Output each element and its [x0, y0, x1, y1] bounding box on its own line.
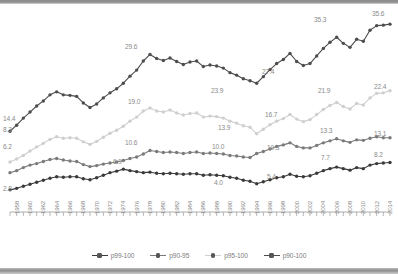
data-label: 6.9: [113, 159, 122, 166]
data-point: [375, 162, 378, 165]
series-line-p90-95: [10, 137, 390, 173]
data-point: [335, 101, 338, 104]
data-point: [328, 139, 331, 142]
data-label: 10.0: [212, 144, 224, 151]
data-point: [155, 109, 158, 112]
data-point: [295, 145, 298, 148]
data-point: [235, 154, 238, 157]
data-point: [315, 144, 318, 147]
data-point: [75, 137, 78, 140]
legend-item-p90-100[interactable]: p90-100: [264, 252, 307, 259]
x-tick-label: 1960: [26, 201, 33, 214]
data-point: [228, 119, 231, 122]
data-point: [42, 179, 45, 182]
data-point: [135, 68, 138, 71]
data-point: [122, 159, 125, 162]
data-point: [62, 137, 65, 140]
data-point: [275, 119, 278, 122]
data-point: [295, 117, 298, 120]
data-point: [368, 137, 371, 140]
data-point: [188, 172, 191, 175]
bottom-divider-bar: [0, 268, 398, 274]
data-point: [142, 109, 145, 112]
legend-item-p90-95[interactable]: p90-95: [150, 252, 189, 259]
x-tick-label: 1996: [266, 201, 273, 214]
data-point: [122, 82, 125, 85]
data-point: [15, 187, 18, 190]
legend-label: p90-100: [283, 252, 307, 259]
data-point: [208, 63, 211, 66]
data-point: [95, 176, 98, 179]
data-label: 13.1: [374, 131, 386, 138]
legend-item-p95-100[interactable]: p95-100: [205, 252, 248, 259]
data-point: [268, 123, 271, 126]
data-point: [62, 158, 65, 161]
data-point: [208, 114, 211, 117]
data-point: [335, 165, 338, 168]
data-point: [275, 62, 278, 65]
data-point: [82, 163, 85, 166]
data-point: [355, 102, 358, 105]
data-point: [368, 163, 371, 166]
data-point: [68, 175, 71, 178]
data-label: 6.2: [3, 144, 12, 151]
data-point: [168, 171, 171, 174]
data-point: [95, 102, 98, 105]
legend-swatch-icon: [150, 255, 166, 256]
data-point: [62, 176, 65, 179]
series-line-p95-100: [10, 91, 390, 162]
data-point: [242, 155, 245, 158]
legend-item-p99-100[interactable]: p99-100: [92, 252, 135, 259]
series-p90-100: [8, 22, 391, 133]
data-point: [308, 62, 311, 65]
data-point: [68, 94, 71, 97]
data-point: [182, 113, 185, 116]
data-point: [228, 71, 231, 74]
data-point: [302, 175, 305, 178]
data-point: [262, 128, 265, 131]
data-point: [55, 90, 58, 93]
x-tick-label: 2002: [306, 201, 313, 214]
data-point: [8, 160, 11, 163]
data-point: [128, 74, 131, 77]
data-point: [15, 123, 18, 126]
data-point: [255, 152, 258, 155]
data-point: [75, 160, 78, 163]
legend-marker-icon: [211, 253, 215, 257]
legend-label: p95-100: [224, 252, 248, 259]
data-point: [108, 171, 111, 174]
data-point: [175, 60, 178, 63]
data-point: [222, 152, 225, 155]
data-point: [62, 93, 65, 96]
data-point: [215, 115, 218, 118]
data-point: [215, 174, 218, 177]
data-point: [302, 146, 305, 149]
data-point: [195, 150, 198, 153]
data-point: [355, 138, 358, 141]
data-label: 7.7: [321, 155, 330, 162]
data-point: [22, 185, 25, 188]
data-point: [82, 177, 85, 180]
x-tick-label: 1968: [79, 201, 86, 214]
data-point: [315, 113, 318, 116]
data-point: [82, 140, 85, 143]
data-point: [248, 79, 251, 82]
data-point: [82, 101, 85, 104]
data-point: [322, 108, 325, 111]
data-point: [368, 28, 371, 31]
data-point: [195, 172, 198, 175]
data-point: [208, 173, 211, 176]
data-point: [142, 152, 145, 155]
data-point: [15, 157, 18, 160]
data-point: [308, 174, 311, 177]
data-point: [222, 66, 225, 69]
data-point: [28, 110, 31, 113]
data-point: [88, 143, 91, 146]
data-point: [155, 171, 158, 174]
data-label: 27.4: [262, 69, 274, 76]
data-point: [162, 172, 165, 175]
data-point: [95, 140, 98, 143]
data-point: [175, 151, 178, 154]
data-point: [155, 150, 158, 153]
series-p99-100: [8, 161, 391, 192]
